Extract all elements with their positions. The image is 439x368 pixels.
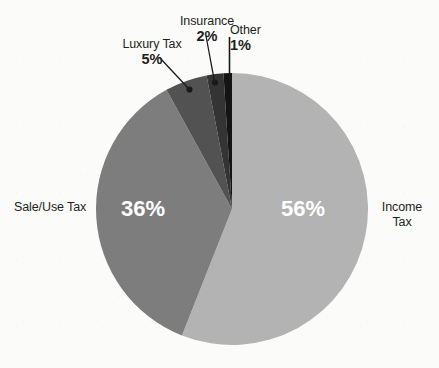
pie-chart-graphic bbox=[0, 0, 439, 368]
pie-label-income-tax-name-line2: Tax bbox=[372, 215, 432, 230]
pie-slice-value-income-tax: 56% bbox=[268, 196, 338, 222]
pie-label-income-tax-name-line1: Income bbox=[372, 200, 432, 215]
pie-label-luxury-tax-percent: 5% bbox=[116, 52, 188, 67]
pie-slice-value-sale-use-tax: 36% bbox=[108, 196, 178, 222]
pie-label-sale-use-tax: Sale/Use Tax bbox=[14, 200, 110, 215]
pie-chart: 56% 36% Luxury Tax 5% Insurance 2% Other… bbox=[0, 0, 439, 368]
pie-label-other: Other 1% bbox=[230, 23, 290, 52]
pie-label-other-percent: 1% bbox=[230, 38, 290, 53]
pie-label-income-tax: Income Tax bbox=[372, 200, 432, 230]
pie-label-other-name: Other bbox=[230, 23, 290, 38]
pie-label-sale-use-tax-name: Sale/Use Tax bbox=[14, 200, 110, 215]
